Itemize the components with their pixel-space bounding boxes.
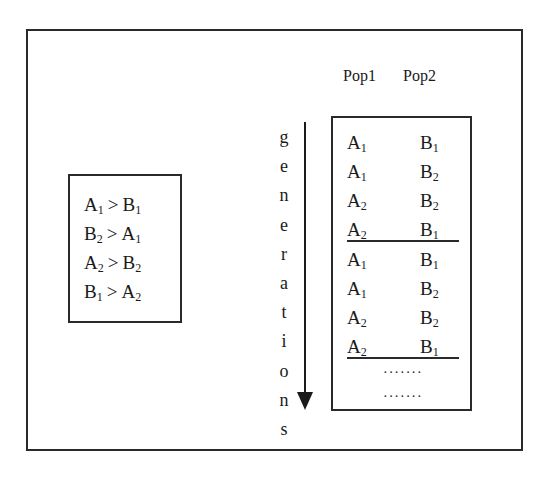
rule-operator: > bbox=[107, 223, 118, 244]
generations-label: g e n e r a t i o n s bbox=[276, 123, 292, 444]
label-letter: a bbox=[276, 269, 292, 298]
label-letter: t bbox=[276, 298, 292, 327]
rule-left: B bbox=[84, 281, 97, 302]
rule-left-sub: 1 bbox=[97, 290, 103, 304]
cycle-block-2: A1 B1 A1 B2 A2 B2 A2 B1 bbox=[347, 245, 462, 361]
pair-row: A1 B2 bbox=[347, 274, 462, 303]
pair-row: A2 B2 bbox=[347, 186, 462, 215]
rules-list: A1>B1 B2>A1 A2>B2 B1>A2 bbox=[84, 190, 141, 306]
cycle-block-1: A1 B1 A1 B2 A2 B2 A2 B1 bbox=[347, 128, 462, 244]
rule-left-sub: 2 bbox=[98, 261, 104, 275]
rule-operator: > bbox=[108, 252, 119, 273]
column-header-pop2: Pop2 bbox=[403, 67, 436, 85]
rule-right-sub: 2 bbox=[135, 290, 141, 304]
continuation-dots: ······· bbox=[383, 390, 423, 404]
rule-2: B2>A1 bbox=[84, 219, 141, 248]
rule-right-sub: 2 bbox=[135, 261, 141, 275]
column-header-pop1: Pop1 bbox=[343, 67, 376, 85]
label-letter: n bbox=[276, 181, 292, 210]
rule-right-sub: 1 bbox=[135, 232, 141, 246]
label-letter: i bbox=[276, 327, 292, 356]
generations-arrow-shaft bbox=[304, 122, 306, 394]
label-letter: g bbox=[276, 123, 292, 152]
label-letter: r bbox=[276, 240, 292, 269]
rule-1: A1>B1 bbox=[84, 190, 141, 219]
rule-right: B bbox=[122, 194, 135, 215]
rule-right: A bbox=[121, 281, 135, 302]
pair-row: A1 B2 bbox=[347, 157, 462, 186]
pair-row: A2 B2 bbox=[347, 303, 462, 332]
rule-right-sub: 1 bbox=[135, 203, 141, 217]
label-letter: n bbox=[276, 386, 292, 415]
arrow-down-icon bbox=[297, 392, 313, 410]
population-pairs-box: A1 B1 A1 B2 A2 B2 A2 B1 A1 B1 A1 B2 A2 B… bbox=[331, 116, 472, 411]
pop2-cell: B1 bbox=[420, 332, 439, 367]
rule-left: A bbox=[84, 252, 98, 273]
cycle-separator bbox=[347, 240, 459, 242]
pair-row: A1 B1 bbox=[347, 245, 462, 274]
label-letter: o bbox=[276, 357, 292, 386]
rule-4: B1>A2 bbox=[84, 277, 141, 306]
rule-left-sub: 1 bbox=[98, 203, 104, 217]
rule-operator: > bbox=[107, 281, 118, 302]
rule-left: B bbox=[84, 223, 97, 244]
rule-operator: > bbox=[108, 194, 119, 215]
rule-left: A bbox=[84, 194, 98, 215]
label-letter: e bbox=[276, 211, 292, 240]
dominance-rules-box: A1>B1 B2>A1 A2>B2 B1>A2 bbox=[68, 174, 182, 323]
rule-right: B bbox=[122, 252, 135, 273]
pair-row: A1 B1 bbox=[347, 128, 462, 157]
rule-right: A bbox=[121, 223, 135, 244]
label-letter: s bbox=[276, 415, 292, 444]
continuation-dots: ······· bbox=[383, 366, 423, 380]
cycle-separator bbox=[347, 357, 459, 359]
rule-3: A2>B2 bbox=[84, 248, 141, 277]
label-letter: e bbox=[276, 152, 292, 181]
pop1-cell: A2 bbox=[347, 332, 367, 367]
rule-left-sub: 2 bbox=[97, 232, 103, 246]
